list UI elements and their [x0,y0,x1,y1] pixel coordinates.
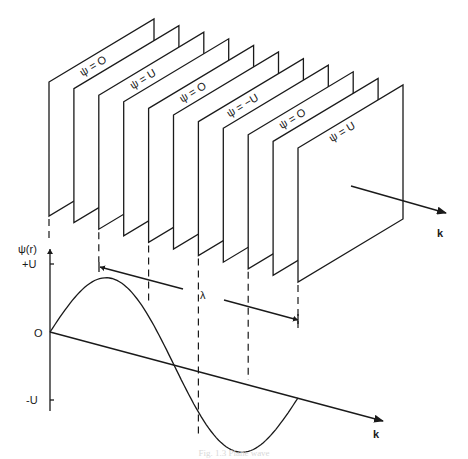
wave-curve [50,278,298,453]
wave-vector-label-top: k [437,227,444,239]
y-tick-label-zero: O [34,327,43,339]
y-tick-label-plus-u: +U [22,258,36,270]
wavelength-arrow-right [224,300,298,320]
plane-wave-diagram: ψ = Oψ = Uψ = Oψ = −Uψ = Oψ = U k ψ(r) +… [0,0,468,459]
k-axis-label: k [373,428,380,440]
y-tick-label-minus-u: -U [26,394,38,406]
wavelength-label: λ [200,289,206,301]
k-axis [50,332,383,421]
y-axis-label: ψ(r) [18,243,37,255]
figure-caption: Fig. 1.3 Plane wave [198,448,269,458]
